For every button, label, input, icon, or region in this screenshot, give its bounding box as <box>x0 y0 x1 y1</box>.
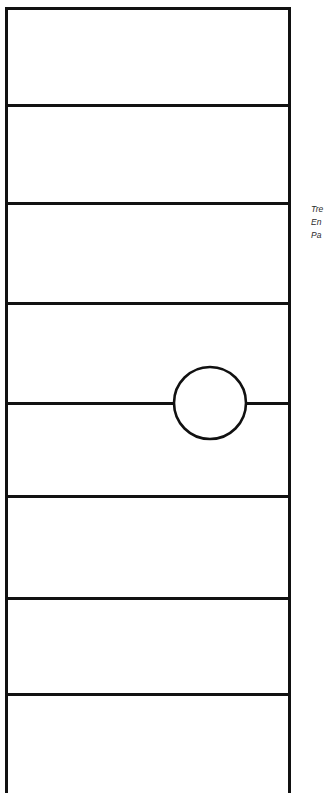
caption-line-2: En <box>311 216 330 229</box>
line-drawing-figure <box>0 0 330 793</box>
technical-drawing-canvas: Tre En Pa <box>0 0 330 793</box>
caption-line-3: Pa <box>311 229 330 242</box>
caption-line-1: Tre <box>311 203 330 216</box>
divider-line-5 <box>6 496 289 497</box>
caption-text-block: Tre En Pa <box>311 203 330 242</box>
inscribed-circle <box>174 367 246 439</box>
